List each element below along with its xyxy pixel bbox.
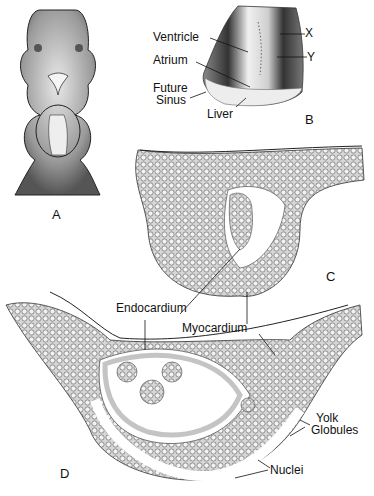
panel-label-c: C xyxy=(326,269,335,284)
label-x: X xyxy=(305,27,313,40)
panel-label-d: D xyxy=(60,466,69,481)
label-atrium: Atrium xyxy=(153,54,188,67)
label-myocardium: Myocardium xyxy=(182,322,247,335)
embryo-drawing-a xyxy=(15,10,100,195)
heart-drawing-b xyxy=(190,6,307,107)
label-sinus: Sinus xyxy=(156,94,186,107)
panel-label-a: A xyxy=(52,207,61,222)
panel-label-b: B xyxy=(305,112,314,127)
label-ventricle: Ventricle xyxy=(153,31,199,44)
label-globules: Globules xyxy=(311,424,358,437)
label-endocardium: Endocardium xyxy=(116,302,187,315)
label-nuclei: Nuclei xyxy=(270,464,303,477)
label-liver: Liver xyxy=(207,108,233,121)
section-drawing-c xyxy=(136,146,364,324)
label-y: Y xyxy=(307,51,315,64)
